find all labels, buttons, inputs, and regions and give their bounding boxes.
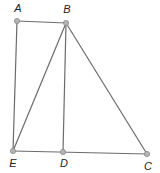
point-c — [144, 151, 149, 156]
label-b: B — [63, 3, 70, 15]
segment-ae — [13, 21, 17, 151]
segment-ab — [17, 21, 66, 23]
label-d: D — [60, 157, 68, 169]
labels-group: ABEDC — [9, 2, 152, 172]
label-c: C — [144, 160, 152, 172]
point-b — [63, 20, 68, 25]
segments-group — [13, 21, 147, 154]
label-e: E — [9, 157, 17, 169]
label-a: A — [13, 2, 21, 14]
segment-bc — [66, 23, 147, 154]
points-group — [10, 18, 149, 156]
geometry-diagram: ABEDC — [0, 0, 160, 173]
point-e — [10, 148, 15, 153]
point-d — [60, 149, 65, 154]
point-a — [14, 18, 19, 23]
segment-bd — [63, 23, 66, 152]
segment-ec — [13, 151, 147, 154]
segment-be — [13, 23, 66, 151]
